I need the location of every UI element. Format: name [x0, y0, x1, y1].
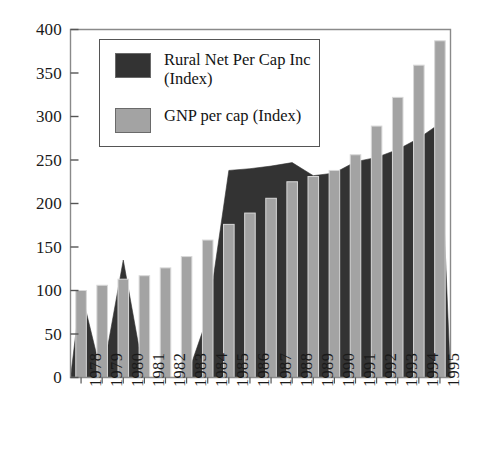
x-axis-tick-label: 1981 [151, 352, 168, 386]
x-axis-tick-label: 1982 [172, 352, 189, 386]
x-axis-tick-label: 1985 [235, 352, 252, 386]
x-axis-tick-label: 1991 [362, 352, 379, 386]
chart-legend: Rural Net Per Cap Inc (Index) GNP per ca… [99, 39, 320, 147]
x-axis-tick-label: 1990 [341, 352, 358, 386]
x-axis-tick-label: 1987 [278, 352, 295, 386]
x-axis-tick-label: 1979 [109, 352, 126, 386]
x-axis-tick-label: 1995 [446, 352, 463, 386]
x-axis-tick-label: 1993 [404, 352, 421, 386]
legend-swatch-gray [115, 108, 151, 133]
x-axis-tick-label: 1988 [299, 352, 316, 386]
x-axis-tick-label: 1992 [383, 352, 400, 386]
x-axis-tick-label: 1984 [214, 352, 231, 386]
x-axis-tick-label: 1978 [88, 352, 105, 386]
legend-swatch-dark [115, 53, 151, 78]
chart-figure: 050100150200250300350400 197819791980198… [0, 0, 478, 456]
x-axis-tick-label: 1986 [256, 352, 273, 386]
legend-label-gnp-per-cap: GNP per cap (Index) [164, 106, 301, 125]
x-axis-tick-label: 1983 [193, 352, 210, 386]
legend-label-rural-net-per-cap: Rural Net Per Cap Inc (Index) [164, 50, 311, 89]
x-axis-tick-label: 1980 [130, 352, 147, 386]
x-axis-tick-label: 1994 [425, 352, 442, 386]
x-axis-tick-label: 1989 [320, 352, 337, 386]
